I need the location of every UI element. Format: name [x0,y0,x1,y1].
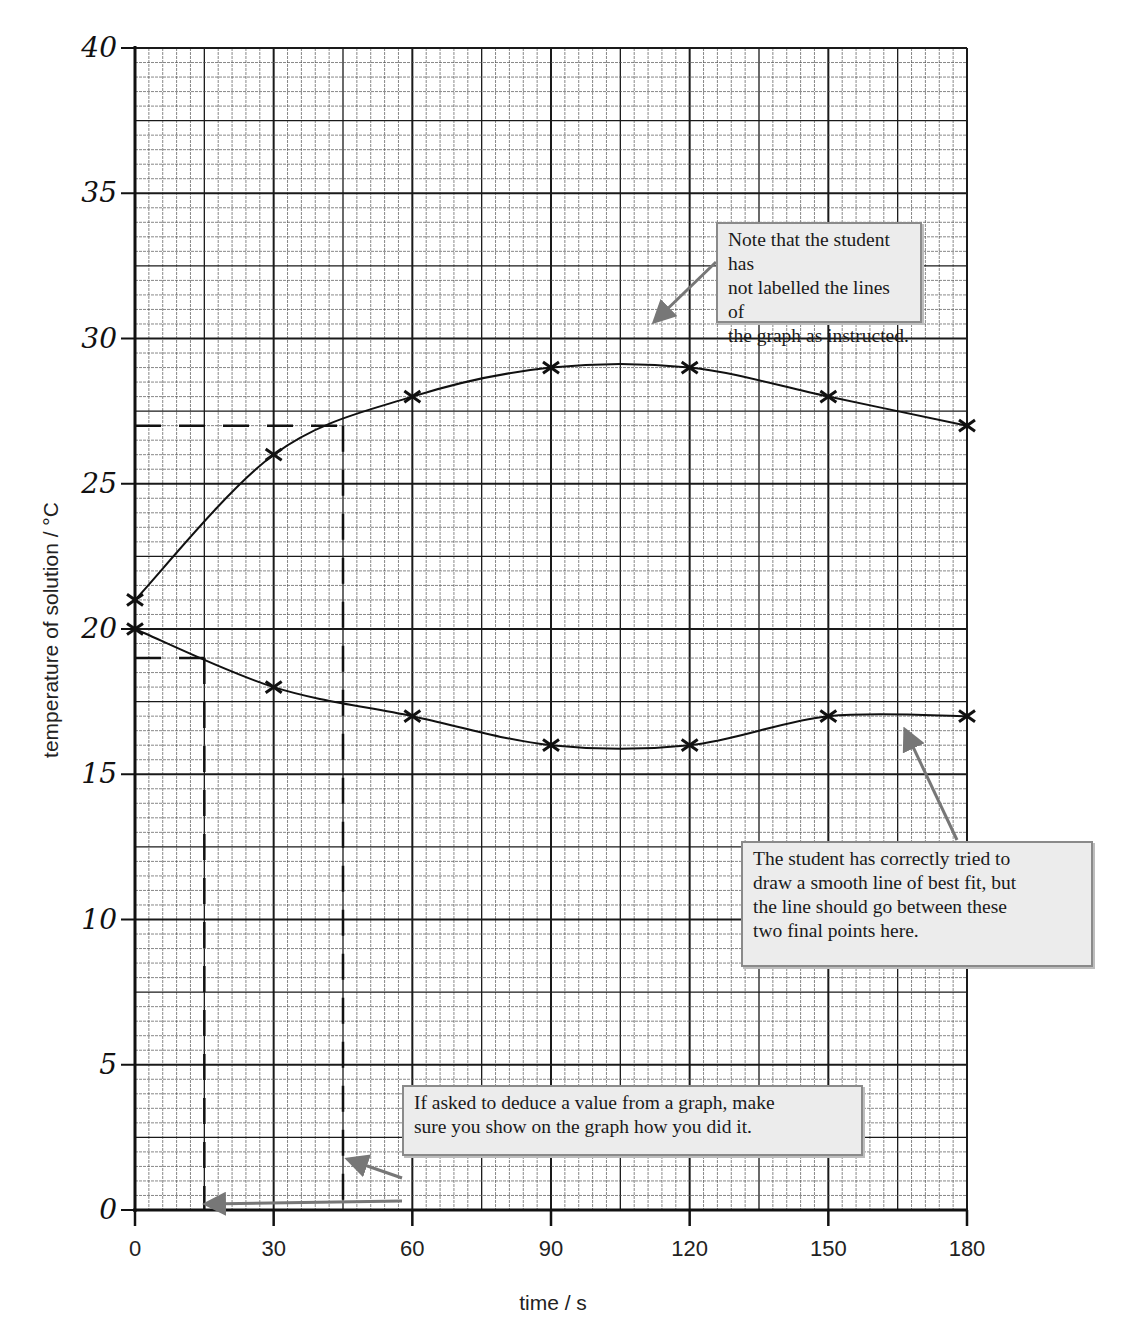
x-tick-labels: 0306090120150180 [129,1236,985,1261]
note-best-fit-line: The student has correctly tried to draw … [741,841,1093,967]
y-tick-label: 30 [81,322,117,355]
y-tick-label: 35 [81,176,117,209]
x-tick-label: 30 [261,1236,285,1261]
y-tick-label: 25 [80,467,117,500]
annotation-arrows [208,262,957,1204]
y-tick-label: 40 [80,31,117,64]
arrow-icon [350,1160,402,1178]
x-tick-label: 0 [129,1236,141,1261]
y-tick-label: 10 [81,903,117,936]
note-unlabelled-lines: Note that the student has not labelled t… [716,222,922,323]
x-axis-title: time / s [519,1291,587,1314]
note-deduce-value: If asked to deduce a value from a graph,… [402,1085,863,1156]
x-tick-label: 90 [539,1236,563,1261]
arrow-icon [208,1201,402,1204]
arrow-icon [656,262,716,320]
x-tick-label: 180 [949,1236,986,1261]
y-tick-label: 0 [99,1193,117,1226]
y-tick-label: 5 [99,1048,117,1081]
y-axis-title: temperature of solution / °C [39,502,62,758]
x-tick-label: 60 [400,1236,424,1261]
x-tick-label: 150 [810,1236,847,1261]
y-tick-labels: 0510152025303540 [80,31,117,1226]
x-tick-label: 120 [671,1236,708,1261]
arrow-icon [906,732,957,840]
y-tick-label: 20 [80,612,117,645]
y-tick-label: 15 [81,757,117,790]
